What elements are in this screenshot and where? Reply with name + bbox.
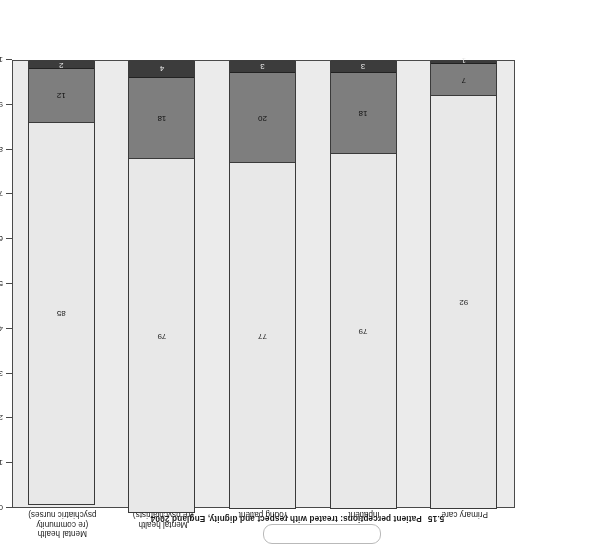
y-tick-60 bbox=[6, 238, 12, 239]
bar-0-segment-1[interactable]: 92 bbox=[431, 96, 496, 508]
bar-3-segment-3-value: 4 bbox=[160, 64, 164, 72]
y-tick-label-50: 50 bbox=[0, 280, 3, 289]
y-tick-label-10: 10 bbox=[0, 459, 3, 468]
y-tick-label-30: 30 bbox=[0, 369, 3, 378]
y-tick-label-70: 70 bbox=[0, 190, 3, 199]
y-tick-20 bbox=[6, 417, 12, 418]
y-tick-100 bbox=[6, 59, 12, 60]
bar-2-segment-1-value: 77 bbox=[258, 332, 267, 340]
bar-0-segment-1-value: 92 bbox=[459, 298, 468, 306]
category-label-1: Inpatient bbox=[316, 510, 412, 519]
category-axis-labels: Primary careInpatientYoung patientMental… bbox=[12, 508, 515, 532]
bars-container: 927179183772037918485122 bbox=[13, 61, 514, 507]
y-tick-70 bbox=[6, 193, 12, 194]
bar-1-segment-2[interactable]: 18 bbox=[331, 73, 396, 154]
y-tick-0 bbox=[6, 507, 12, 508]
y-tick-10 bbox=[6, 462, 12, 463]
category-label-line: Young patient bbox=[216, 510, 312, 519]
bar-2-segment-2-value: 20 bbox=[258, 114, 267, 122]
category-label-2: Young patient bbox=[216, 510, 312, 519]
bar-2[interactable]: 77203 bbox=[229, 61, 296, 509]
y-tick-40 bbox=[6, 328, 12, 329]
y-tick-label-100: 100 bbox=[0, 56, 3, 65]
bar-0-segment-2[interactable]: 7 bbox=[431, 64, 496, 95]
category-label-line: Mental health bbox=[14, 529, 110, 538]
y-tick-80 bbox=[6, 149, 12, 150]
y-tick-label-0: 0 bbox=[0, 504, 3, 513]
y-axis: 0102030405060708090100 bbox=[0, 60, 12, 508]
bar-2-segment-3[interactable]: 3 bbox=[230, 60, 295, 73]
category-label-4: Mental health(re communitypsychiatric nu… bbox=[14, 510, 110, 538]
plot-area: 927179183772037918485122 bbox=[12, 60, 515, 508]
y-tick-label-40: 40 bbox=[0, 324, 3, 333]
bar-0[interactable]: 9271 bbox=[430, 61, 497, 509]
category-label-line: Mental health bbox=[115, 519, 211, 528]
bar-2-segment-1[interactable]: 77 bbox=[230, 163, 295, 508]
bar-3-segment-2-value: 18 bbox=[157, 114, 166, 122]
y-tick-label-90: 90 bbox=[0, 100, 3, 109]
bar-3-segment-3[interactable]: 4 bbox=[129, 60, 194, 78]
bar-4-segment-3[interactable]: 2 bbox=[29, 60, 94, 69]
bar-1-segment-1[interactable]: 79 bbox=[331, 154, 396, 508]
y-tick-label-80: 80 bbox=[0, 145, 3, 154]
bar-1[interactable]: 79183 bbox=[330, 61, 397, 509]
bar-1-segment-1-value: 79 bbox=[359, 327, 368, 335]
bar-3[interactable]: 79184 bbox=[128, 61, 195, 513]
y-tick-30 bbox=[6, 373, 12, 374]
bar-3-segment-1-value: 79 bbox=[157, 332, 166, 340]
bar-2-segment-2[interactable]: 20 bbox=[230, 73, 295, 163]
y-tick-label-20: 20 bbox=[0, 414, 3, 423]
bar-0-segment-2-value: 7 bbox=[461, 76, 465, 84]
bar-4[interactable]: 85122 bbox=[28, 61, 95, 505]
bar-1-segment-3-value: 3 bbox=[361, 62, 365, 70]
category-label-line: Primary care bbox=[417, 510, 513, 519]
bar-1-segment-3[interactable]: 3 bbox=[331, 60, 396, 73]
bar-1-segment-2-value: 18 bbox=[359, 109, 368, 117]
bar-4-segment-1[interactable]: 85 bbox=[29, 123, 94, 504]
bar-3-segment-2[interactable]: 18 bbox=[129, 78, 194, 159]
y-tick-90 bbox=[6, 104, 12, 105]
bar-0-segment-3-value: 1 bbox=[461, 56, 465, 64]
category-label-line: psychiatric nurses) bbox=[14, 510, 110, 519]
bar-3-segment-1[interactable]: 79 bbox=[129, 159, 194, 513]
category-label-0: Primary care bbox=[417, 510, 513, 519]
bar-4-segment-2-value: 12 bbox=[57, 91, 66, 99]
category-label-line: (re community bbox=[14, 519, 110, 528]
y-tick-50 bbox=[6, 283, 12, 284]
bar-4-segment-3-value: 2 bbox=[59, 61, 63, 69]
bar-4-segment-2[interactable]: 12 bbox=[29, 69, 94, 123]
y-tick-label-60: 60 bbox=[0, 235, 3, 244]
category-label-line: Inpatient bbox=[316, 510, 412, 519]
bar-2-segment-3-value: 3 bbox=[260, 62, 264, 70]
bar-0-segment-3[interactable]: 1 bbox=[431, 60, 496, 64]
bar-4-segment-1-value: 85 bbox=[57, 309, 66, 317]
